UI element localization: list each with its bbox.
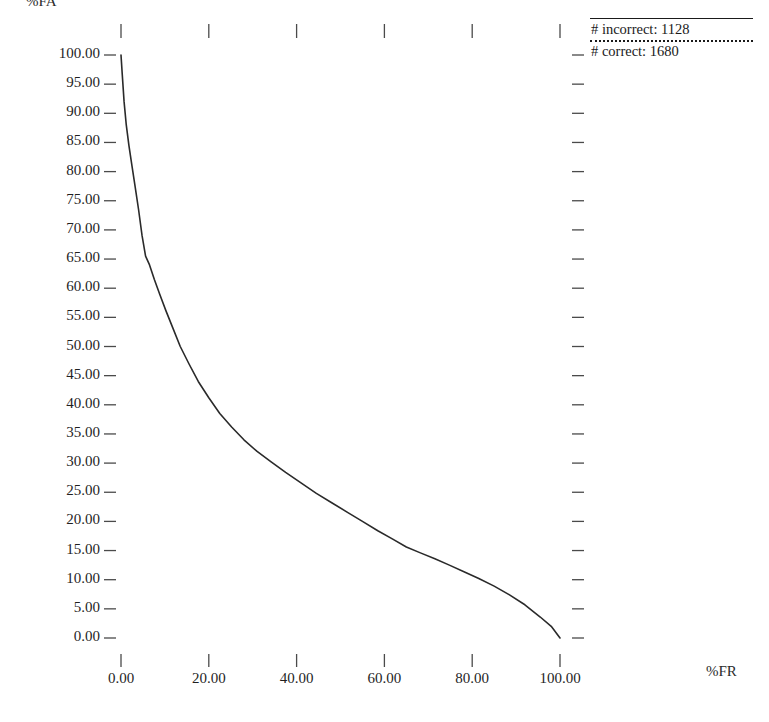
legend-swatch-solid-line [590,18,753,19]
legend-label-correct: # correct: 1680 [591,43,679,60]
legend-item-correct: # correct: 1680 [590,40,753,62]
legend-label-incorrect: # incorrect: 1128 [591,21,690,38]
tick-marks [104,24,584,667]
legend-item-incorrect: # incorrect: 1128 [590,18,753,40]
legend: # incorrect: 1128 # correct: 1680 [590,18,753,62]
chart-container: %FA %FR 100.0095.0090.0085.0080.0075.007… [0,0,769,722]
series-line-0 [121,55,560,638]
data-curves [121,55,560,638]
plot-area [0,0,769,722]
legend-swatch-dotted-line [590,40,753,42]
